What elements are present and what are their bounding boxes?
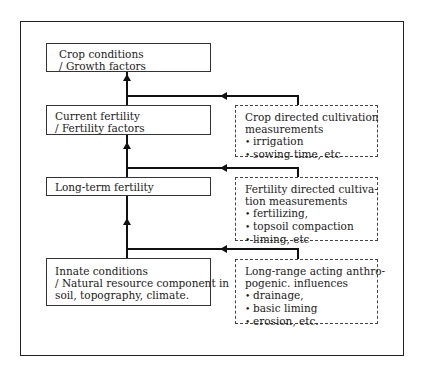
box-text: Current fertility	[55, 110, 202, 122]
bullet-item: topsoil compaction	[245, 220, 368, 233]
box-text: / Natural resource component in	[55, 277, 202, 289]
box-title: Fertility directed cultiva-	[245, 183, 368, 195]
connector-long-range	[126, 248, 298, 250]
arrow-up-icon	[123, 74, 131, 81]
bullet-item: erosion, etc.	[245, 315, 368, 328]
box-title: pogenic. influences	[245, 277, 368, 289]
box-text: soil, topography, climate.	[55, 289, 202, 301]
box-title: Crop directed cultivation	[245, 111, 368, 123]
box-innate-conditions: Innate conditions / Natural resource com…	[46, 258, 211, 306]
box-text: / Fertility factors	[55, 122, 202, 134]
arrow-left-icon	[220, 92, 227, 100]
bullet-item: basic liming	[245, 302, 368, 315]
bullet-item: sowing time, etc	[245, 148, 368, 161]
bullet-item: liming, etc	[245, 233, 368, 246]
arrow-up-icon	[123, 218, 131, 225]
connector-fertility-directed-drop	[297, 167, 299, 177]
box-long-range: Long-range acting anthro- pogenic. influ…	[235, 259, 378, 324]
box-text: Crop conditions	[59, 48, 202, 60]
vertical-connector	[126, 72, 128, 258]
arrow-left-icon	[220, 164, 227, 172]
bullet-item: fertilizing,	[245, 207, 368, 220]
box-long-term-fertility: Long-term fertility	[46, 177, 211, 196]
box-crop-conditions: Crop conditions / Growth factors	[46, 43, 211, 72]
box-title: measurements	[245, 123, 368, 135]
connector-fertility-directed	[126, 167, 298, 169]
arrow-up-icon	[123, 142, 131, 149]
box-title: tion measurements	[245, 195, 368, 207]
bullet-item: drainage,	[245, 289, 368, 302]
box-crop-directed: Crop directed cultivation measurements i…	[235, 105, 378, 157]
bullet-item: irrigation	[245, 135, 368, 148]
connector-long-range-drop	[297, 248, 299, 259]
box-text: / Growth factors	[59, 60, 202, 72]
box-fertility-directed: Fertility directed cultiva- tion measure…	[235, 177, 378, 241]
box-text: Long-term fertility	[55, 181, 202, 193]
connector-crop-directed	[126, 95, 298, 97]
box-text: Innate conditions	[55, 265, 202, 277]
connector-crop-directed-drop	[297, 95, 299, 105]
arrow-left-icon	[220, 245, 227, 253]
box-current-fertility: Current fertility / Fertility factors	[46, 105, 211, 135]
box-title: Long-range acting anthro-	[245, 265, 368, 277]
